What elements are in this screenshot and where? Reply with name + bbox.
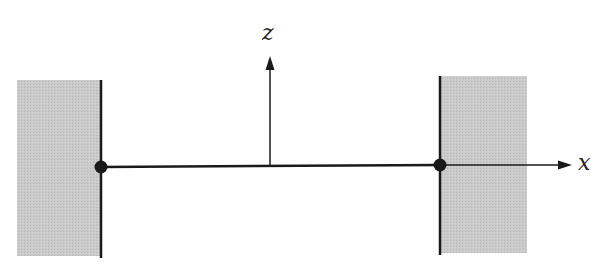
z-axis-label: z	[262, 22, 274, 44]
left-support-dot-icon	[95, 161, 108, 174]
x-axis-arrow-icon	[558, 161, 572, 170]
x-axis-label: x	[578, 152, 590, 174]
right-support-dot-icon	[434, 159, 447, 172]
diagram-canvas: z x	[0, 0, 605, 268]
z-axis-arrow-icon	[266, 56, 275, 70]
diagram-svg	[0, 0, 605, 268]
left-wall	[17, 80, 101, 256]
